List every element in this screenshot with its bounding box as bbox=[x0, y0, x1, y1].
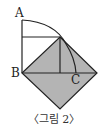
figure-caption: 〈그림 2〉 bbox=[0, 110, 108, 125]
label-c: C bbox=[71, 74, 80, 86]
label-a: A bbox=[15, 7, 24, 19]
label-b: B bbox=[11, 67, 20, 79]
